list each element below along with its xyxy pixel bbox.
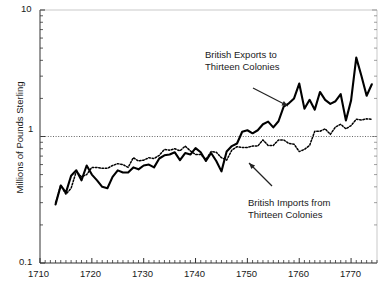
imports-annotation-line2: Thirteen Colonies [248, 209, 322, 220]
annotation-arrows [249, 88, 288, 186]
exports-annotation: British Exports to Thirteen Colonies [205, 49, 325, 72]
imports-annotation: British Imports from Thirteen Colonies [248, 197, 378, 220]
x-axis-ticks [40, 258, 377, 263]
y-tick-label-10: 10 [21, 3, 32, 14]
chart-figure: Millions of Pounds Sterling 10 1 0.1 171… [0, 0, 392, 288]
y-axis-label: Millions of Pounds Sterling [14, 63, 25, 213]
exports-annotation-line1: British Exports to [205, 49, 277, 60]
x-tick-label-1720: 1720 [80, 268, 101, 279]
y-tick-label-0-1: 0.1 [19, 256, 32, 267]
series-line-imports [56, 119, 372, 203]
x-tick-label-1760: 1760 [288, 268, 309, 279]
x-tick-label-1740: 1740 [184, 268, 205, 279]
x-tick-label-1710: 1710 [28, 268, 49, 279]
imports-annotation-line1: British Imports from [248, 197, 330, 208]
x-tick-label-1730: 1730 [132, 268, 153, 279]
y-tick-label-1: 1 [28, 123, 33, 134]
x-tick-label-1750: 1750 [236, 268, 257, 279]
series-line-exports [56, 58, 372, 205]
chart-plot-area [0, 0, 392, 288]
exports-annotation-line2: Thirteen Colonies [205, 61, 279, 72]
x-tick-label-1770: 1770 [340, 268, 361, 279]
